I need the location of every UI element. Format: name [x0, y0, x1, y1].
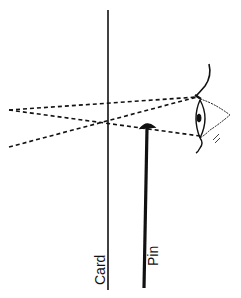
- pin-label: Pin: [145, 246, 161, 266]
- sight-line-to-pin: [9, 110, 200, 136]
- card-label: Card: [92, 255, 108, 285]
- sight-line-upper: [9, 97, 197, 110]
- diagram-canvas: [0, 0, 241, 298]
- eye-icon: [195, 64, 230, 153]
- sight-lines: [9, 97, 200, 147]
